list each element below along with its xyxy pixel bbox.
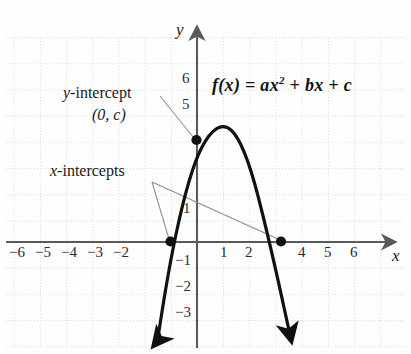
y-tick-5: 5 xyxy=(182,96,190,113)
y-tick-1: 1 xyxy=(183,200,191,217)
formula-tail: + bx + c xyxy=(285,75,352,95)
x-tick-4: 4 xyxy=(298,244,306,261)
y-tick--1: −1 xyxy=(175,252,191,269)
point-x-intercept-right xyxy=(276,236,286,246)
y-axis-label: y xyxy=(176,20,184,40)
y-tick--2: −2 xyxy=(175,278,191,295)
point-x-intercept-left xyxy=(165,236,175,246)
y-tick-6: 6 xyxy=(182,70,190,87)
formula-head: f(x) = ax xyxy=(212,75,279,95)
y-intercept-label: y-intercept xyxy=(63,84,131,102)
x-tick-5: 5 xyxy=(324,244,332,261)
function-formula: f(x) = ax2 + bx + c xyxy=(212,74,352,96)
point-y-intercept xyxy=(191,135,201,145)
x-intercepts-label: x-intercepts xyxy=(50,162,125,180)
x-tick-2: 2 xyxy=(245,244,253,261)
x-intercepts-label-rest: -intercepts xyxy=(57,162,125,179)
x-tick--2: −2 xyxy=(113,244,129,261)
x-tick-6: 6 xyxy=(350,244,358,261)
x-tick--6: −6 xyxy=(9,244,25,261)
x-tick--5: −5 xyxy=(35,244,51,261)
leader-x-intercept-left xyxy=(152,182,169,239)
parabola-left-arrowhead xyxy=(155,341,158,345)
x-axis-label: x xyxy=(392,246,400,266)
x-tick--3: −3 xyxy=(87,244,103,261)
y-intercept-label-rest: -intercept xyxy=(70,84,131,101)
y-intercept-coords: (0, c) xyxy=(92,106,126,124)
x-tick-1: 1 xyxy=(220,244,228,261)
graph-figure: y x −6 −5 −4 −3 −2 1 2 4 5 6 6 5 1 −1 −2… xyxy=(0,0,411,354)
y-tick--3: −3 xyxy=(175,304,191,321)
x-tick--4: −4 xyxy=(61,244,77,261)
